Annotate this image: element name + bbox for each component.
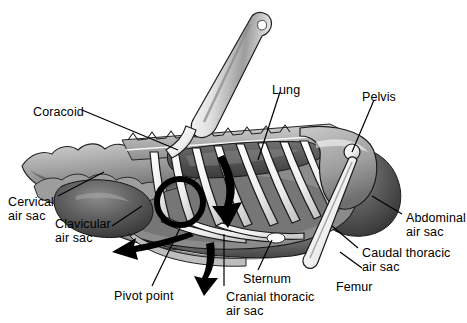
label-pelvis: Pelvis (362, 91, 396, 105)
anatomy-illustration (0, 0, 467, 323)
figure-canvas: Coracoid Lung Pelvis Cervical air sac Cl… (0, 0, 467, 323)
leader-femur (340, 252, 362, 268)
label-clavicular-air-sac: Clavicular air sac (55, 217, 111, 245)
label-coracoid: Coracoid (33, 106, 84, 120)
label-caudal-thoracic-air-sac: Caudal thoracic air sac (362, 246, 450, 274)
label-cervical-air-sac: Cervical air sac (8, 195, 54, 223)
label-lung: Lung (272, 84, 300, 98)
label-femur: Femur (336, 281, 373, 295)
sternal-foramen (267, 233, 285, 243)
label-sternum: Sternum (243, 273, 291, 287)
label-pivot-point: Pivot point (114, 290, 173, 304)
label-abdominal-air-sac: Abdominal air sac (406, 211, 466, 239)
scapula-humerus-bone (191, 13, 271, 138)
label-cranial-thoracic-air-sac: Cranial thoracic air sac (226, 290, 314, 318)
